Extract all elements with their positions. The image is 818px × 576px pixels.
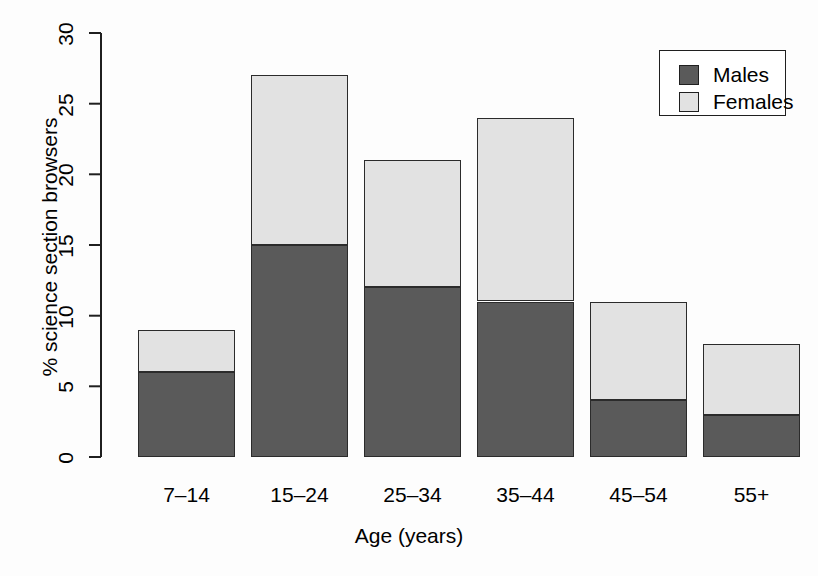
x-tick-label: 45–54 <box>590 483 687 507</box>
y-axis-title: % science section browsers <box>38 82 62 412</box>
bar-segment-males <box>364 287 461 457</box>
bar-segment-females <box>138 330 235 372</box>
legend-label-females: Females <box>713 91 794 112</box>
plot-area: 30 25 20 15 10 5 0 % science section bro… <box>0 0 818 576</box>
bar-segment-males <box>703 415 800 457</box>
x-tick-label: 7–14 <box>138 483 235 507</box>
x-axis-title: Age (years) <box>0 524 818 548</box>
x-tick-label: 25–34 <box>364 483 461 507</box>
bar-segment-females <box>251 75 348 245</box>
y-tick-label: 0 <box>54 438 78 478</box>
legend-label-males: Males <box>713 64 769 85</box>
bar-segment-females <box>703 344 800 415</box>
y-tick-label: 30 <box>54 14 78 54</box>
chart-figure: 30 25 20 15 10 5 0 % science section bro… <box>0 0 818 576</box>
x-tick-label: 15–24 <box>251 483 348 507</box>
legend-item-males: Males <box>679 64 769 85</box>
bar-segment-females <box>590 302 687 401</box>
x-tick-label: 55+ <box>703 483 800 507</box>
bar-segment-females <box>477 118 574 302</box>
bar-segment-females <box>364 160 461 287</box>
legend-swatch-males <box>679 65 699 85</box>
x-tick-label: 35–44 <box>477 483 574 507</box>
bar-segment-males <box>477 302 574 458</box>
legend-item-females: Females <box>679 91 794 112</box>
bar-segment-males <box>251 245 348 457</box>
bar-segment-males <box>590 400 687 457</box>
legend-swatch-females <box>679 92 699 112</box>
bar-segment-males <box>138 372 235 457</box>
